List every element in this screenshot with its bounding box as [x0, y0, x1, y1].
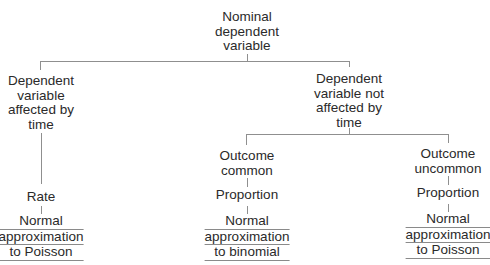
root-label-line-1: Nominal — [215, 10, 279, 25]
method-common-line-1: Normal — [205, 214, 290, 230]
leaf-normal-approx-binomial: Normal approximation to binomial — [205, 214, 290, 261]
affected-label-line-3: affected by — [8, 103, 74, 118]
connector-to-outcome-common — [246, 134, 247, 145]
node-outcome-uncommon: Outcome uncommon — [415, 147, 482, 176]
method-common-line-2: approximation — [205, 230, 290, 246]
node-proportion-uncommon: Proportion — [417, 186, 479, 201]
node-outcome-common: Outcome common — [220, 149, 275, 178]
method-uncommon-line-2: approximation — [406, 228, 490, 244]
connector-uncommon-to-proportion — [448, 176, 449, 185]
leaf-normal-approx-poisson-rate: Normal approximation to Poisson — [0, 214, 83, 261]
not-affected-label-line-1: Dependent — [314, 72, 384, 87]
connector-root-down — [247, 54, 248, 61]
connector-to-outcome-uncommon — [448, 134, 449, 143]
outcome-common-line-2: common — [220, 164, 275, 179]
connector-affected-to-rate — [41, 133, 42, 184]
proportion-common-label: Proportion — [216, 188, 278, 203]
method-uncommon-line-3: to Poisson — [406, 243, 490, 259]
leaf-normal-approx-poisson-uncommon: Normal approximation to Poisson — [406, 212, 490, 259]
affected-label-line-2: variable — [8, 89, 74, 104]
method-rate-line-3: to Poisson — [0, 245, 83, 261]
method-rate-line-1: Normal — [0, 214, 83, 230]
outcome-uncommon-line-2: uncommon — [415, 162, 482, 177]
connector-to-not-affected — [349, 61, 350, 67]
connector-level1-horizontal — [40, 61, 350, 62]
root-label-line-3: variable — [215, 39, 279, 54]
not-affected-label-line-4: time — [314, 116, 384, 131]
outcome-uncommon-line-1: Outcome — [415, 147, 482, 162]
node-proportion-common: Proportion — [216, 188, 278, 203]
connector-to-affected — [40, 61, 41, 70]
root-label-line-2: dependent — [215, 25, 279, 40]
affected-label-line-4: time — [8, 118, 74, 133]
proportion-uncommon-label: Proportion — [417, 186, 479, 201]
not-affected-label-line-2: variable not — [314, 87, 384, 102]
method-rate-line-2: approximation — [0, 230, 83, 246]
connector-level2-horizontal — [246, 134, 449, 135]
method-common-line-3: to binomial — [205, 245, 290, 261]
root-node-nominal-dependent-variable: Nominal dependent variable — [215, 10, 279, 54]
not-affected-label-line-3: affected by — [314, 101, 384, 116]
rate-label: Rate — [27, 190, 56, 205]
node-affected-by-time: Dependent variable affected by time — [8, 74, 74, 132]
node-rate: Rate — [27, 190, 56, 205]
method-uncommon-line-1: Normal — [406, 212, 490, 228]
node-not-affected-by-time: Dependent variable not affected by time — [314, 72, 384, 130]
connector-common-to-proportion — [247, 178, 248, 187]
affected-label-line-1: Dependent — [8, 74, 74, 89]
outcome-common-line-1: Outcome — [220, 149, 275, 164]
